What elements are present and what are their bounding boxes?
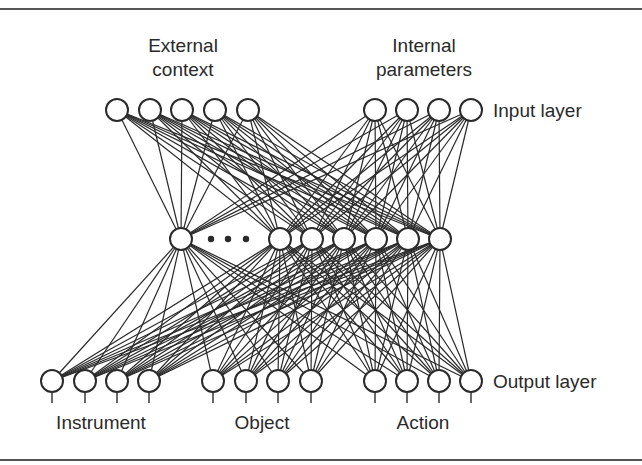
connection-line bbox=[407, 239, 440, 381]
connection-line bbox=[440, 239, 471, 381]
external-context-label-line2: context bbox=[152, 58, 213, 81]
output-node bbox=[202, 370, 224, 392]
output-node bbox=[460, 370, 482, 392]
connection-line bbox=[52, 239, 344, 381]
network-diagram bbox=[0, 0, 642, 465]
connection-line bbox=[117, 110, 181, 239]
action-label: Action bbox=[397, 411, 450, 434]
connection-line bbox=[280, 110, 407, 239]
hidden-node bbox=[269, 228, 291, 250]
connection-line bbox=[376, 110, 471, 239]
connection-line bbox=[182, 110, 280, 239]
ellipsis-dots bbox=[208, 236, 249, 242]
input-node bbox=[204, 99, 226, 121]
connection-line bbox=[248, 110, 280, 239]
output-layer-label: Output layer bbox=[493, 370, 597, 393]
hidden-node bbox=[397, 228, 419, 250]
output-node bbox=[74, 370, 96, 392]
connection-line bbox=[117, 239, 181, 381]
internal-parameters-label-line1: Internal bbox=[392, 34, 455, 57]
input-node bbox=[106, 99, 128, 121]
ellipsis-dot bbox=[225, 236, 231, 242]
ellipsis-dot bbox=[208, 236, 214, 242]
input-node bbox=[171, 99, 193, 121]
output-node bbox=[267, 370, 289, 392]
connection-line bbox=[439, 239, 440, 381]
input-layer-label: Input layer bbox=[493, 99, 582, 122]
output-node bbox=[428, 370, 450, 392]
output-node bbox=[396, 370, 418, 392]
input-node bbox=[237, 99, 259, 121]
connection-line bbox=[52, 239, 408, 381]
hidden-node bbox=[365, 228, 387, 250]
connection-line bbox=[248, 110, 376, 239]
output-node bbox=[364, 370, 386, 392]
ellipsis-dot bbox=[243, 236, 249, 242]
input-node bbox=[460, 99, 482, 121]
internal-parameters-label-line2: parameters bbox=[376, 58, 472, 81]
output-stems bbox=[52, 392, 471, 403]
input-node bbox=[139, 99, 161, 121]
output-node bbox=[300, 370, 322, 392]
input-node bbox=[428, 99, 450, 121]
connection-line bbox=[85, 239, 440, 381]
input-node bbox=[396, 99, 418, 121]
instrument-label: Instrument bbox=[56, 411, 146, 434]
hidden-node bbox=[301, 228, 323, 250]
connection-line bbox=[181, 110, 182, 239]
output-node bbox=[138, 370, 160, 392]
object-label: Object bbox=[235, 411, 290, 434]
connection-line bbox=[248, 110, 312, 239]
hidden-node bbox=[429, 228, 451, 250]
hidden-node bbox=[333, 228, 355, 250]
input-node bbox=[364, 99, 386, 121]
connection-line bbox=[280, 110, 439, 239]
output-node bbox=[235, 370, 257, 392]
connection-line bbox=[440, 110, 471, 239]
hidden-node bbox=[170, 228, 192, 250]
external-context-label-line1: External bbox=[148, 34, 218, 57]
output-node bbox=[106, 370, 128, 392]
output-node bbox=[41, 370, 63, 392]
